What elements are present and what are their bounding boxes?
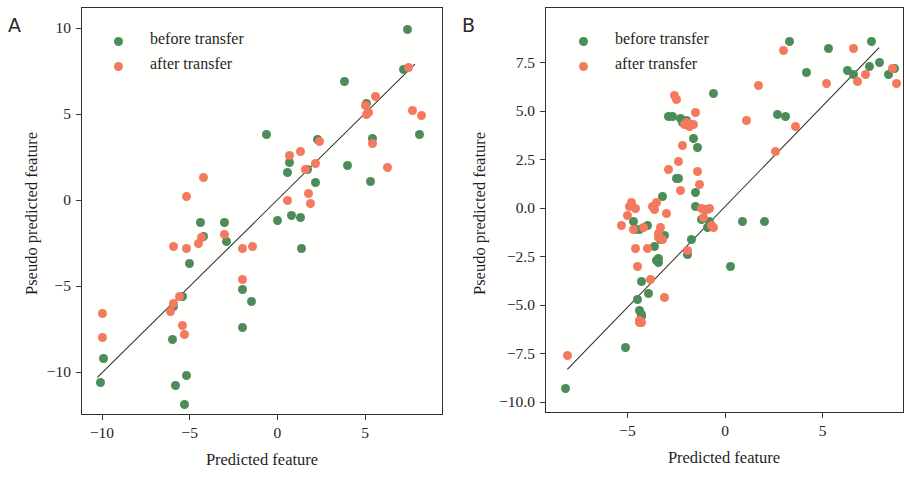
data-point-before xyxy=(168,335,177,344)
data-point-after xyxy=(283,196,292,205)
data-point-after xyxy=(754,81,763,90)
panel-b-y-tickmark xyxy=(540,305,545,306)
data-point-after xyxy=(98,309,107,318)
panel-b-y-tickmark xyxy=(540,256,545,257)
panel-b-y-tickmark xyxy=(540,62,545,63)
panel-b-x-tick-label: 0 xyxy=(695,422,755,440)
data-point-before xyxy=(287,211,296,220)
panel-b-y-tickmark xyxy=(540,159,545,160)
panel-b-y-tick-label: −7.5 xyxy=(452,345,535,363)
panel-b-y-tick-label: 7.5 xyxy=(452,54,535,72)
data-point-before xyxy=(238,285,247,294)
data-point-before xyxy=(366,177,375,186)
data-point-after xyxy=(417,111,426,120)
data-point-before xyxy=(182,371,191,380)
data-point-before xyxy=(633,295,642,304)
panel-b: B Pseudo predicted feature Predicted fea… xyxy=(452,0,904,477)
data-point-before xyxy=(760,217,769,226)
legend-label-after: after transfer xyxy=(150,55,232,73)
data-point-after xyxy=(631,244,640,253)
data-point-before xyxy=(296,213,305,222)
data-point-after xyxy=(180,330,189,339)
data-point-after xyxy=(182,192,191,201)
data-point-after xyxy=(678,141,687,150)
data-point-after xyxy=(861,70,870,79)
panel-b-y-tickmark xyxy=(540,208,545,209)
data-point-after xyxy=(175,292,184,301)
panel-a-x-axis-title: Predicted feature xyxy=(182,450,342,470)
panel-a-y-tick-label: 10 xyxy=(0,19,71,37)
data-point-before xyxy=(875,58,884,67)
data-point-before xyxy=(687,235,696,244)
data-point-before xyxy=(867,37,876,46)
panel-a-x-tickmark xyxy=(102,415,103,420)
data-point-after xyxy=(364,108,373,117)
panel-b-x-tick-label: −5 xyxy=(598,422,658,440)
data-point-after xyxy=(637,318,646,327)
data-point-after xyxy=(660,293,669,302)
panel-a-plot-frame xyxy=(81,7,443,415)
panel-b-y-tick-label: 2.5 xyxy=(452,151,535,169)
panel-a-y-tickmark xyxy=(76,286,81,287)
data-point-before xyxy=(99,354,108,363)
legend-label-before: before transfer xyxy=(150,30,244,48)
data-point-before xyxy=(785,37,794,46)
data-point-before xyxy=(689,134,698,143)
data-point-after xyxy=(98,333,107,342)
data-point-before xyxy=(247,297,256,306)
legend-marker-after-icon xyxy=(579,62,588,71)
data-point-before xyxy=(273,216,282,225)
data-point-after xyxy=(658,235,667,244)
panel-a-y-axis-title: Pseudo predicted feature xyxy=(22,132,42,295)
data-point-after xyxy=(238,244,247,253)
panel-a-x-tick-label: 5 xyxy=(335,424,395,442)
panel-a-y-tick-label: 0 xyxy=(0,191,71,209)
data-point-before xyxy=(726,262,735,271)
panel-a-y-tickmark xyxy=(76,200,81,201)
data-point-after xyxy=(693,167,702,176)
data-point-after xyxy=(888,64,897,73)
data-point-after xyxy=(674,157,683,166)
panel-b-y-tick-label: 0.0 xyxy=(452,199,535,217)
data-point-before xyxy=(96,378,105,387)
panel-a-y-tickmark xyxy=(76,114,81,115)
panel-b-x-tickmark xyxy=(627,413,628,418)
panel-b-label: B xyxy=(462,14,475,36)
data-point-after xyxy=(709,223,718,232)
panel-b-y-tick-label: 5.0 xyxy=(452,102,535,120)
data-point-before xyxy=(561,384,570,393)
legend-marker-before-icon xyxy=(114,37,123,46)
figure-canvas: A Pseudo predicted feature Predicted fea… xyxy=(0,0,904,477)
panel-b-x-tickmark xyxy=(725,413,726,418)
panel-b-y-tick-label: −2.5 xyxy=(452,248,535,266)
legend-label-after: after transfer xyxy=(615,55,697,73)
panel-a-x-tick-label: 0 xyxy=(247,424,307,442)
data-point-before xyxy=(637,277,646,286)
panel-a-y-tick-label: −5 xyxy=(0,277,71,295)
panel-b-y-tickmark xyxy=(540,353,545,354)
data-point-after xyxy=(238,275,247,284)
data-point-after xyxy=(408,106,417,115)
panel-a: A Pseudo predicted feature Predicted fea… xyxy=(0,0,452,477)
legend-label-before: before transfer xyxy=(615,30,709,48)
panel-b-x-tickmark xyxy=(822,413,823,418)
data-point-after xyxy=(676,186,685,195)
data-point-after xyxy=(368,139,377,148)
data-point-after xyxy=(631,204,640,213)
data-point-after xyxy=(639,223,648,232)
panel-a-y-tickmark xyxy=(76,372,81,373)
data-point-after xyxy=(643,244,652,253)
data-point-after xyxy=(656,223,665,232)
data-point-after xyxy=(705,204,714,213)
panel-b-y-tickmark xyxy=(540,111,545,112)
data-point-before xyxy=(709,89,718,98)
data-point-after xyxy=(315,137,324,146)
panel-a-y-tick-label: −10 xyxy=(0,363,71,381)
panel-b-x-tick-label: 5 xyxy=(793,422,853,440)
panel-a-x-tickmark xyxy=(277,415,278,420)
data-point-after xyxy=(285,151,294,160)
data-point-after xyxy=(672,95,681,104)
data-point-before xyxy=(340,77,349,86)
data-point-before xyxy=(238,323,247,332)
data-point-after xyxy=(182,244,191,253)
